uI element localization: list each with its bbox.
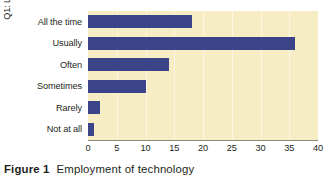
bar xyxy=(88,15,192,28)
gridline xyxy=(203,11,204,140)
category-label: Rarely xyxy=(56,101,82,115)
category-label: Often xyxy=(60,58,82,72)
x-tick-label: 25 xyxy=(227,142,237,155)
figure-employment-of-technology: Q1: Liklihood of employing technology? A… xyxy=(0,0,332,176)
category-label: Not at all xyxy=(47,122,82,136)
gridline xyxy=(117,11,118,140)
category-axis-labels: All the timeUsuallyOftenSometimesRarelyN… xyxy=(26,11,85,140)
x-tick-label: 40 xyxy=(313,142,323,155)
bar xyxy=(88,123,94,136)
category-label: Usually xyxy=(53,36,82,50)
x-axis-tick-labels: 0510152025303540 xyxy=(88,142,318,155)
gridline xyxy=(232,11,233,140)
figure-caption: Figure 1Employment of technology xyxy=(4,162,330,176)
bar xyxy=(88,101,100,114)
category-label: Sometimes xyxy=(37,79,82,93)
figure-caption-label: Figure 1 xyxy=(4,163,50,175)
x-tick-label: 5 xyxy=(114,142,119,155)
y-axis-title: Q1: Liklihood of employing technology? xyxy=(0,0,26,34)
x-tick-label: 30 xyxy=(255,142,265,155)
figure-caption-text: Employment of technology xyxy=(57,163,195,175)
x-tick-label: 35 xyxy=(284,142,294,155)
category-label: All the time xyxy=(38,15,82,29)
bar xyxy=(88,37,295,50)
bar xyxy=(88,80,146,93)
x-tick-label: 0 xyxy=(85,142,90,155)
gridline xyxy=(261,11,262,140)
gridline xyxy=(146,11,147,140)
bar xyxy=(88,58,169,71)
gridline xyxy=(174,11,175,140)
x-tick-label: 20 xyxy=(198,142,208,155)
gridline xyxy=(289,11,290,140)
x-tick-label: 15 xyxy=(169,142,179,155)
x-tick-label: 10 xyxy=(140,142,150,155)
plot-area xyxy=(88,11,318,140)
x-axis-line xyxy=(88,140,318,141)
